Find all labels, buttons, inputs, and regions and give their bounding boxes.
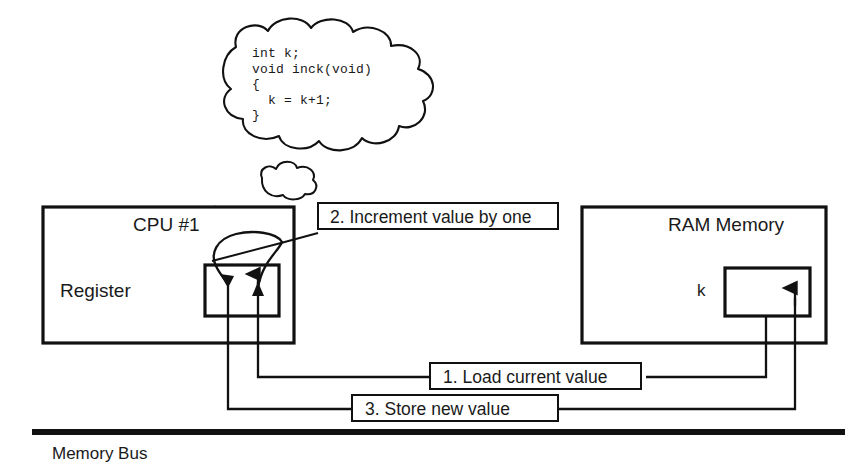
register-label: Register xyxy=(60,280,131,302)
register-cell-outline xyxy=(205,265,279,316)
thought-bubble-code-line-3: { xyxy=(252,77,260,93)
memory-bus-label: Memory Bus xyxy=(52,444,147,464)
thought-bubble-code-line-5: } xyxy=(252,108,260,124)
diagram-canvas: int k; void inck(void) { k = k+1; } CPU … xyxy=(0,0,868,474)
thought-bubble-trail-large xyxy=(261,162,316,200)
callout-step-1-text: 1. Load current value xyxy=(443,367,607,387)
cpu-box-title: CPU #1 xyxy=(133,214,200,236)
ram-box-title: RAM Memory xyxy=(668,214,784,236)
thought-bubble-code-line-4: k = k+1; xyxy=(252,93,332,109)
callout-step-3-text: 3. Store new value xyxy=(365,399,510,419)
thought-bubble-code-line-2: void inck(void) xyxy=(252,62,372,78)
memory-cell-k-outline xyxy=(725,268,810,316)
thought-bubble-code-line-1: int k; xyxy=(252,46,300,62)
memory-variable-k-label: k xyxy=(697,281,706,301)
callout-step-2-text: 2. Increment value by one xyxy=(330,207,531,227)
